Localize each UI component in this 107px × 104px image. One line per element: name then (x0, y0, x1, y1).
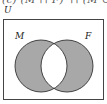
set-m-label: M (14, 31, 25, 41)
venn-diagram: M F (0, 0, 107, 104)
set-f-label: F (84, 31, 92, 41)
